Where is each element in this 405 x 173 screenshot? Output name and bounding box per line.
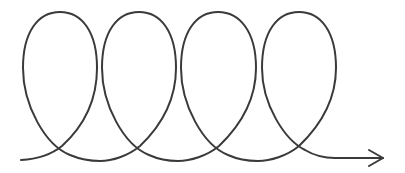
spiral-arrow-diagram xyxy=(0,0,405,173)
spiral-path xyxy=(21,12,383,161)
diagram-canvas xyxy=(0,0,405,173)
